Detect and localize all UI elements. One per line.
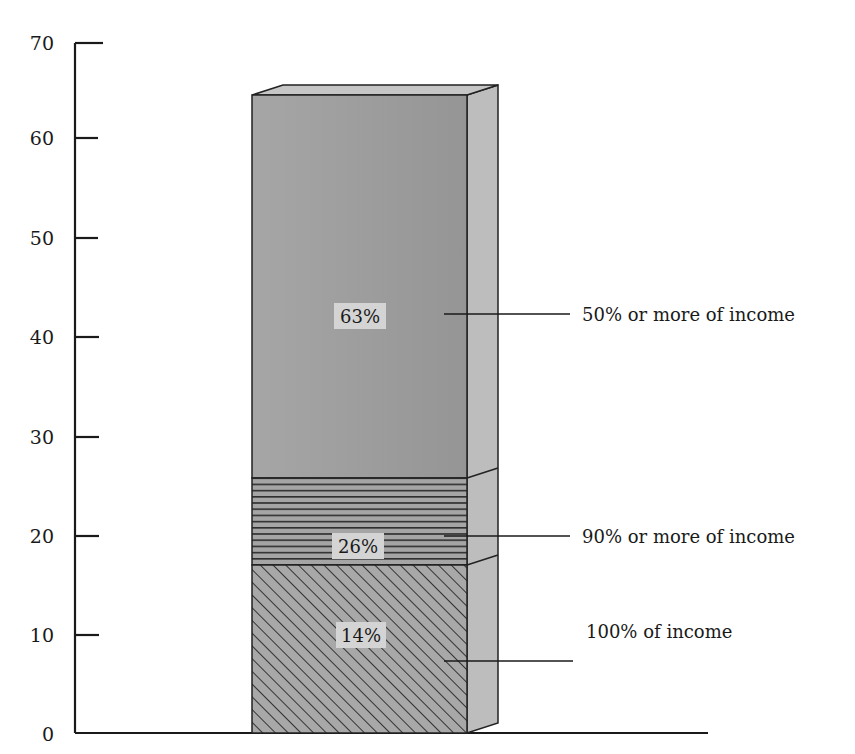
svg-text:90% or more of income: 90% or more of income — [582, 526, 795, 547]
y-tick-label: 70 — [30, 32, 54, 54]
y-tick-label: 10 — [30, 624, 54, 646]
bar-top-face — [252, 85, 498, 95]
svg-text:26%: 26% — [338, 536, 378, 557]
segment-100 — [252, 565, 467, 733]
y-tick-label: 0 — [42, 723, 54, 745]
svg-text:100% of income: 100% of income — [586, 621, 732, 642]
y-tick-label: 40 — [30, 326, 54, 348]
svg-text:14%: 14% — [341, 625, 381, 646]
y-tick-label: 50 — [30, 227, 54, 249]
segment-label-63: 63% — [334, 303, 386, 329]
y-tick-label: 60 — [30, 127, 54, 149]
svg-text:50% or more of income: 50% or more of income — [582, 304, 795, 325]
y-axis: 70 60 50 40 30 20 10 0 — [30, 32, 103, 745]
bar-side-face — [467, 85, 498, 733]
y-tick-label: 30 — [30, 426, 54, 448]
svg-text:63%: 63% — [340, 306, 380, 327]
segment-label-26: 26% — [332, 533, 384, 559]
stacked-bar-chart: 70 60 50 40 30 20 10 0 63% 26% 14% — [0, 0, 855, 754]
segment-label-14: 14% — [336, 622, 386, 648]
segment-50-or-more — [252, 95, 467, 478]
y-tick-label: 20 — [30, 525, 54, 547]
